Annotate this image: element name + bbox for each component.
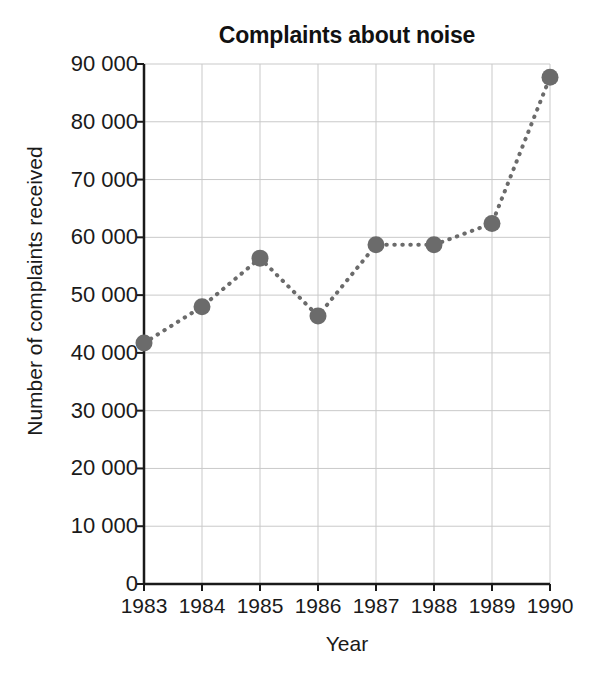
y-tick-label: 60 000 xyxy=(18,224,138,250)
x-axis-tick-labels: 19831984198519861987198819891990 xyxy=(0,594,603,624)
y-tick-label: 40 000 xyxy=(18,340,138,366)
axis-lines xyxy=(144,64,550,584)
data-point-marker xyxy=(426,236,443,253)
plot-area xyxy=(144,64,550,584)
data-point-marker xyxy=(136,335,153,352)
y-tick-label: 70 000 xyxy=(18,167,138,193)
data-series-markers xyxy=(136,69,559,352)
horizontal-gridlines xyxy=(144,64,550,526)
y-tick-label: 80 000 xyxy=(18,109,138,135)
data-point-marker xyxy=(310,307,327,324)
y-axis-tick-labels: 010 00020 00030 00040 00050 00060 00070 … xyxy=(8,64,138,584)
data-point-marker xyxy=(252,250,269,267)
data-point-marker xyxy=(368,236,385,253)
data-point-marker xyxy=(484,215,501,232)
data-point-marker xyxy=(542,69,559,86)
y-tick-label: 30 000 xyxy=(18,398,138,424)
chart-figure: Complaints about noise Number of complai… xyxy=(0,0,603,684)
axis-tick-marks xyxy=(137,64,550,591)
y-tick-label: 50 000 xyxy=(18,282,138,308)
data-point-marker xyxy=(194,298,211,315)
y-tick-label: 90 000 xyxy=(18,51,138,77)
y-tick-label: 10 000 xyxy=(18,513,138,539)
vertical-gridlines xyxy=(202,64,550,584)
x-tick-label: 1990 xyxy=(515,594,585,618)
y-tick-label: 20 000 xyxy=(18,455,138,481)
plot-svg xyxy=(144,64,550,584)
x-axis-title: Year xyxy=(144,632,550,656)
chart-title: Complaints about noise xyxy=(144,22,550,49)
